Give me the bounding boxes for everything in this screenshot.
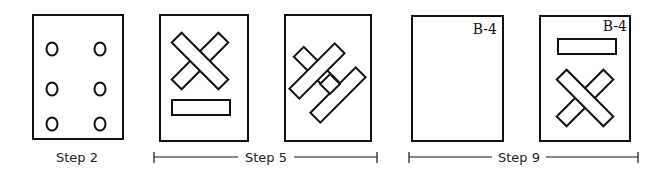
assembly-steps-diagram: B-4 B-4 Step 2 Step 5 Step 9 <box>0 0 671 181</box>
hole-icon <box>95 83 106 96</box>
hole-icon <box>95 43 106 56</box>
step2-panel <box>33 15 123 139</box>
hole-icon <box>47 83 58 96</box>
step-label: Step 9 <box>498 150 540 165</box>
hole-icon <box>95 118 106 131</box>
hole-icon <box>47 43 58 56</box>
step-label: Step 5 <box>245 150 287 165</box>
step5-panel-b <box>285 15 371 141</box>
panel-tag: B-4 <box>603 18 627 34</box>
panel-tag: B-4 <box>473 21 497 37</box>
hole-icon <box>47 118 58 131</box>
step9-panel-b <box>540 16 630 141</box>
step5-panel-a <box>160 15 248 141</box>
step-label: Step 2 <box>56 150 98 165</box>
